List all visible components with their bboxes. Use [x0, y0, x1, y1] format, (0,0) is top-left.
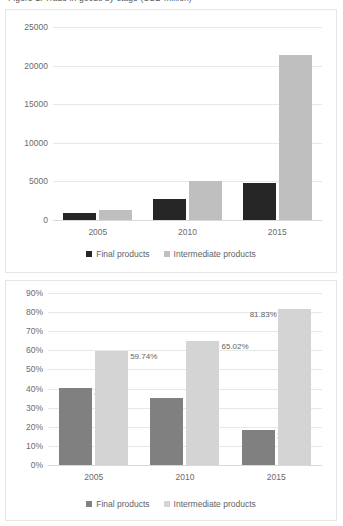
absolute-values-chart-panel: 25000 20000 15000 10000 5000 0 2005 2010	[5, 9, 337, 273]
y-tick-label: 10%	[26, 441, 43, 451]
x-tick-label: 2005	[53, 227, 143, 237]
bar-group-2005: 40.26% 59.74% 2005	[48, 293, 139, 465]
legend-swatch-icon	[164, 251, 170, 257]
x-tick-label: 2010	[139, 472, 230, 482]
legend-swatch-icon	[86, 251, 92, 257]
bar-group-2010: 2010	[143, 27, 233, 220]
y-tick-label: 25000	[24, 22, 48, 32]
axis-baseline	[53, 220, 322, 221]
x-tick-label: 2005	[48, 472, 139, 482]
share-chart: 90% 80% 70% 60% 50% 40% 30% 20% 10% 0% 4…	[6, 281, 336, 520]
bar-groups-absolute: 2005 2010 2015	[53, 27, 322, 220]
bar-group-2015: 18.17% 81.83% 2015	[231, 293, 322, 465]
legend-swatch-icon	[164, 501, 170, 507]
bar-intermediate-2015[interactable]	[279, 55, 312, 220]
cropped-figure-title: Figure 1. Trade in goods by stage (USD m…	[8, 0, 338, 5]
y-tick-label: 20000	[24, 61, 48, 71]
bar-intermediate-2010[interactable]	[189, 181, 222, 220]
bar-final-2010[interactable]	[153, 199, 186, 220]
legend-item-intermediate-products[interactable]: Intermediate products	[164, 499, 256, 509]
legend-label: Final products	[96, 499, 149, 509]
y-tick-label: 40%	[26, 384, 43, 394]
plot-area-share: 90% 80% 70% 60% 50% 40% 30% 20% 10% 0% 4…	[48, 293, 322, 465]
bar-final-2015[interactable]	[243, 183, 276, 220]
bar-intermediate-2010[interactable]: 65.02%	[186, 341, 219, 465]
bar-group-2010: 34.98% 65.02% 2010	[139, 293, 230, 465]
legend-absolute: Final products Intermediate products	[6, 249, 336, 259]
y-tick-label: 50%	[26, 364, 43, 374]
absolute-values-chart: 25000 20000 15000 10000 5000 0 2005 2010	[6, 10, 336, 272]
legend-swatch-icon	[86, 501, 92, 507]
bar-final-2015[interactable]: 18.17%	[242, 430, 275, 465]
axis-baseline	[48, 465, 322, 466]
bar-value-label: 81.83%	[250, 311, 277, 319]
y-tick-label: 90%	[26, 288, 43, 298]
x-tick-label: 2010	[143, 227, 233, 237]
bar-final-2005[interactable]	[63, 213, 96, 220]
legend-share: Final products Intermediate products	[6, 499, 336, 509]
y-tick-label: 60%	[26, 345, 43, 355]
y-tick-label: 80%	[26, 307, 43, 317]
y-tick-label: 0%	[31, 460, 43, 470]
bar-intermediate-2005[interactable]: 59.74%	[95, 351, 128, 465]
legend-label: Final products	[96, 249, 149, 259]
y-tick-label: 10000	[24, 138, 48, 148]
legend-item-intermediate-products[interactable]: Intermediate products	[164, 249, 256, 259]
legend-item-final-products[interactable]: Final products	[86, 249, 149, 259]
bar-final-2005[interactable]: 40.26%	[59, 388, 92, 465]
bar-groups-share: 40.26% 59.74% 2005 34.98% 65.02%	[48, 293, 322, 465]
share-chart-panel: 90% 80% 70% 60% 50% 40% 30% 20% 10% 0% 4…	[5, 280, 337, 521]
x-tick-label: 2015	[231, 472, 322, 482]
bar-intermediate-2015[interactable]: 81.83%	[278, 309, 311, 465]
y-tick-label: 0	[43, 215, 48, 225]
plot-area-absolute: 25000 20000 15000 10000 5000 0 2005 2010	[53, 27, 322, 220]
figure-page: Figure 1. Trade in goods by stage (USD m…	[0, 0, 343, 526]
y-tick-label: 5000	[29, 176, 48, 186]
bar-intermediate-2005[interactable]	[99, 210, 132, 220]
y-tick-label: 70%	[26, 326, 43, 336]
y-tick-label: 15000	[24, 99, 48, 109]
bar-group-2005: 2005	[53, 27, 143, 220]
y-tick-label: 30%	[26, 403, 43, 413]
bar-group-2015: 2015	[232, 27, 322, 220]
legend-label: Intermediate products	[174, 499, 256, 509]
y-tick-label: 20%	[26, 422, 43, 432]
x-tick-label: 2015	[232, 227, 322, 237]
legend-item-final-products[interactable]: Final products	[86, 499, 149, 509]
legend-label: Intermediate products	[174, 249, 256, 259]
bar-final-2010[interactable]: 34.98%	[150, 398, 183, 465]
